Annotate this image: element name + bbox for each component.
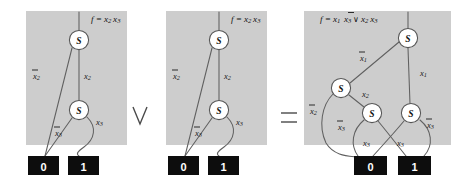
equals-operator: [281, 113, 297, 122]
panel-left-terminal-zero-label: 0: [40, 161, 46, 173]
panel-middle-terminal-one-label: 1: [220, 161, 226, 173]
panel-middle-formula: f = x2 x3: [231, 14, 261, 24]
panel-right-node-s-left-x3-label: S: [369, 109, 374, 119]
panel-middle: S S f = x2 x3 x2 x2 x3 x3 0 1: [166, 11, 267, 175]
panel-middle-node-s-child-label: S: [216, 106, 221, 116]
panel-right-node-s-right-x3-label: S: [408, 109, 413, 119]
panel-left-node-s-child-label: S: [76, 106, 81, 116]
panel-right-terminal-one-label: 1: [411, 161, 417, 173]
panel-left-node-s-root-label: S: [76, 36, 81, 46]
panel-left-terminal-one-label: 1: [80, 161, 86, 173]
panel-middle-terminal-zero-label: 0: [180, 161, 186, 173]
panel-left: S S f = x2 x3 x2 x2 x3 x3 0 1: [26, 11, 127, 175]
panel-middle-node-s-root-label: S: [216, 36, 221, 46]
panel-right-node-s-root-label: S: [405, 34, 410, 44]
or-operator: [133, 107, 147, 124]
panel-right-terminal-zero-label: 0: [367, 161, 373, 173]
panel-left-formula: f = x2 x3: [91, 14, 121, 24]
bdd-identity-figure: S S f = x2 x3 x2 x2 x3 x3 0 1 S: [0, 0, 461, 188]
panel-right: S S S S f = x1 x3 ∨ x2 x3 x1 x1 x2 x2 x3: [304, 11, 451, 175]
panel-right-node-s-x2-label: S: [338, 84, 343, 94]
